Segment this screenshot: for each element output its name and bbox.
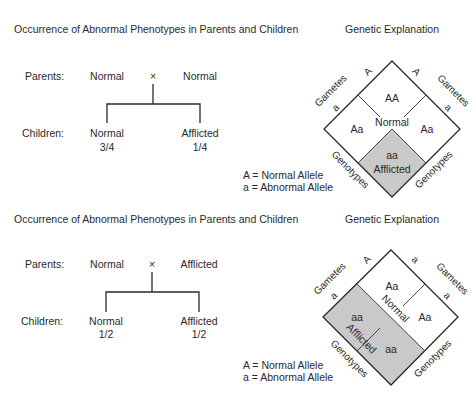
parent-2: Afflicted xyxy=(180,258,217,270)
punnett-diamond: Aa aa Aa aa Normal Afflicted Gametes A a… xyxy=(311,250,470,385)
cell-top: Aa xyxy=(386,280,399,292)
child-2-ratio: 1/4 xyxy=(193,141,208,153)
allele-legend: A = Normal Allele a = Abnormal Allele xyxy=(243,359,333,383)
gamete-left-2: a xyxy=(330,101,342,113)
child-2-phenotype: Afflicted xyxy=(180,315,217,327)
parents-label: Parents: xyxy=(25,258,64,270)
gamete-right-1: a xyxy=(410,254,422,266)
tree-branch xyxy=(107,104,200,123)
legend-abnormal-allele: a = Abnormal Allele xyxy=(243,371,333,383)
child-2-ratio: 1/2 xyxy=(192,328,207,340)
parent-2: Normal xyxy=(183,70,217,82)
gametes-label-right: Gametes xyxy=(434,260,470,296)
panel-title: Occurrence of Abnormal Phenotypes in Par… xyxy=(14,23,298,35)
gamete-right-2: a xyxy=(443,102,455,114)
cell-top: AA xyxy=(385,92,399,104)
cell-right: Aa xyxy=(419,311,432,323)
gamete-left-1: A xyxy=(361,65,374,78)
child-1-ratio: 3/4 xyxy=(100,141,115,153)
parent-1: Normal xyxy=(90,70,124,82)
panel-dominant-cross: Occurrence of Abnormal Phenotypes in Par… xyxy=(14,23,472,197)
explanation-title: Genetic Explanation xyxy=(345,213,439,225)
punnett-diamond: AA Aa Aa Normal aa Afflicted Gametes A a… xyxy=(312,61,471,197)
pedigree-tree: Parents: Normal × Afflicted Children: No… xyxy=(21,258,218,340)
child-1-ratio: 1/2 xyxy=(99,328,114,340)
gamete-left-2: a xyxy=(328,289,340,301)
allele-legend: A = Normal Allele a = Abnormal Allele xyxy=(243,169,333,193)
parent-1: Normal xyxy=(90,258,124,270)
children-label: Children: xyxy=(22,127,64,139)
gamete-left-1: A xyxy=(360,253,373,266)
afflicted-label: Afflicted xyxy=(373,163,410,175)
cell-right: Aa xyxy=(421,123,434,135)
cell-bottom: aa xyxy=(385,343,397,355)
tree-branch xyxy=(106,292,199,312)
explanation-title: Genetic Explanation xyxy=(345,23,439,35)
cross-symbol: × xyxy=(149,258,155,270)
child-1-phenotype: Normal xyxy=(90,127,124,139)
panel-title: Occurrence of Abnormal Phenotypes in Par… xyxy=(14,213,298,225)
gametes-label-right: Gametes xyxy=(435,72,471,108)
child-2-phenotype: Afflicted xyxy=(181,127,218,139)
cell-left: Aa xyxy=(351,123,364,135)
pedigree-tree: Parents: Normal × Normal Children: Norma… xyxy=(22,70,219,153)
child-1-phenotype: Normal xyxy=(89,315,123,327)
legend-abnormal-allele: a = Abnormal Allele xyxy=(243,181,333,193)
cell-bottom: aa xyxy=(386,149,398,161)
normal-label: Normal xyxy=(375,116,409,128)
parents-label: Parents: xyxy=(25,70,64,82)
legend-normal-allele: A = Normal Allele xyxy=(243,169,323,181)
children-label: Children: xyxy=(21,315,63,327)
gametes-label-left: Gametes xyxy=(312,72,348,108)
panel-backcross: Occurrence of Abnormal Phenotypes in Par… xyxy=(14,213,471,385)
cross-symbol: × xyxy=(150,70,156,82)
gamete-right-1: A xyxy=(410,65,423,78)
gamete-right-2: a xyxy=(442,290,454,302)
genetics-figure: Occurrence of Abnormal Phenotypes in Par… xyxy=(0,0,473,401)
legend-normal-allele: A = Normal Allele xyxy=(243,359,323,371)
